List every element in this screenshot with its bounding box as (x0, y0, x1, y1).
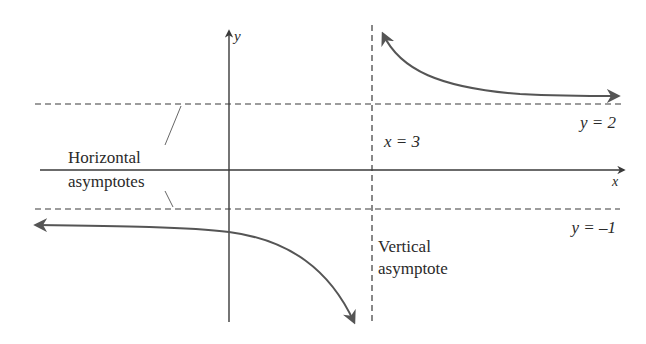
x-axis-label-visible: x (611, 174, 619, 189)
horizontal-caption-line2: asymptotes (68, 172, 145, 191)
leader-line-lower (165, 191, 173, 207)
y-axis-label: y (232, 28, 241, 44)
horizontal-asymptote-lower-label: y = –1 (569, 218, 616, 237)
vertical-asymptote-label: x = 3 (383, 132, 420, 151)
vertical-caption-line1: Vertical (378, 237, 431, 256)
asymptote-diagram: y x x y = 2 y = –1 x = 3 Horizontal asym… (0, 0, 646, 344)
leader-line-upper (165, 106, 181, 145)
curve-branch-lower-left (36, 225, 354, 322)
vertical-caption-line2: asymptote (378, 259, 448, 278)
horizontal-asymptote-upper-label: y = 2 (578, 113, 617, 132)
horizontal-caption-line1: Horizontal (68, 148, 141, 167)
curve-branch-upper-right (383, 34, 618, 96)
